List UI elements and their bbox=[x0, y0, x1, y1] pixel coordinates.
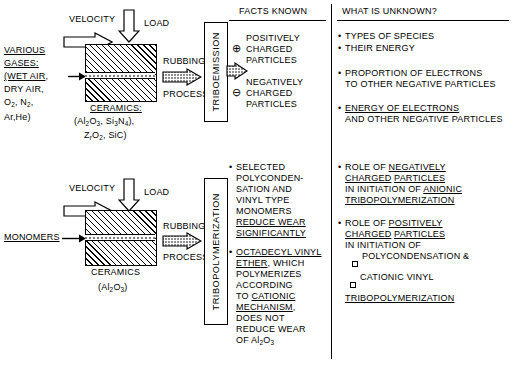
top-unknowns-list: • TYPES OF SPECIES • THEIR ENERGY • PROP… bbox=[338, 31, 503, 125]
bottom-rubbing-label: RUBBING bbox=[163, 221, 205, 232]
column-divider bbox=[331, 4, 332, 359]
unknown-item: • ROLE OF POSITIVELYCHARGED PARTICLESIN … bbox=[338, 218, 469, 251]
unknown-subitem: POLYCONDENSATION & bbox=[352, 251, 469, 272]
fact-text: SELECTEDPOLYCONDEN-SATION ANDVINYL TYPEM… bbox=[236, 162, 306, 239]
unknown-text: PROPORTION OF ELECTRONSTO OTHER NEGATIVE… bbox=[345, 68, 496, 90]
negative-charge-icon: ⊖ bbox=[232, 77, 246, 110]
column-header-facts-known: FACTS KNOWN bbox=[239, 6, 307, 17]
facts-known-underline bbox=[229, 20, 326, 21]
unknown-subitem: TRIBOPOLYMERIZATION bbox=[338, 293, 469, 304]
column-header-what-is-unknown: WHAT IS UNKNOWN? bbox=[342, 6, 437, 17]
fact-negative-text: NEGATIVELYCHARGEDPARTICLES bbox=[246, 77, 303, 110]
bullet-icon: • bbox=[338, 162, 345, 206]
top-process-label: PROCESS bbox=[163, 89, 208, 100]
bullet-icon: • bbox=[338, 31, 345, 42]
bullet-icon: • bbox=[229, 247, 236, 348]
top-input-line-4: DRY AIR, bbox=[4, 84, 48, 95]
bottom-monomer-feed-arrow-icon bbox=[62, 234, 86, 243]
bullet-icon: • bbox=[338, 68, 345, 90]
bottom-rubbing-arrow-icon bbox=[162, 232, 202, 250]
tribopolymerization-label: TRIBOPOLYMERIZATION bbox=[211, 193, 221, 310]
bottom-contact-interface bbox=[85, 234, 155, 241]
fact-item: • OCTADECYL VINYLETHER, WHICHPOLYMERIZES… bbox=[229, 247, 322, 348]
bottom-velocity-label: VELOCITY bbox=[69, 183, 115, 194]
top-specimen-formula-1: (Al2O3, Si3N4), bbox=[74, 116, 134, 129]
fact-item: • SELECTEDPOLYCONDEN-SATION ANDVINYL TYP… bbox=[229, 162, 322, 239]
unknown-subtext: TRIBOPOLYMERIZATION bbox=[345, 293, 454, 304]
unknown-text: ENERGY OF ELECTRONSAND OTHER NEGATIVE PA… bbox=[345, 103, 503, 125]
top-inputs-block: VARIOUS GASES: (WET AIR, DRY AIR, O2, N2… bbox=[4, 45, 48, 123]
fact-positive-text: POSITIVELYCHARGEDPARTICLES bbox=[246, 33, 300, 66]
bottom-facts-list: • SELECTEDPOLYCONDEN-SATION ANDVINYL TYP… bbox=[229, 162, 322, 348]
bullet-icon: • bbox=[338, 103, 345, 125]
bullet-icon: • bbox=[229, 162, 236, 239]
bullet-icon: • bbox=[338, 218, 345, 251]
triboemission-label: TRIBOEMISSION bbox=[211, 32, 221, 112]
top-specimen-title: CERAMICS: bbox=[90, 103, 142, 114]
top-input-line-5: O2, N2, bbox=[4, 97, 48, 110]
unknown-text: THEIR ENERGY bbox=[345, 43, 415, 54]
fact-item-positive: ⊕ POSITIVELYCHARGEDPARTICLES bbox=[232, 33, 303, 66]
unknown-item: • ROLE OF NEGATIVELYCHARGED PARTICLESIN … bbox=[338, 162, 469, 206]
bottom-process-label: PROCESS bbox=[163, 252, 208, 263]
unknown-item: • TYPES OF SPECIES bbox=[338, 31, 503, 42]
unknown-subtext: CATIONIC VINYL bbox=[360, 272, 434, 293]
top-velocity-label: VELOCITY bbox=[69, 14, 115, 25]
bottom-specimen-formula: (Al2O3) bbox=[98, 282, 128, 295]
square-bullet-icon bbox=[350, 272, 357, 293]
what-is-unknown-underline bbox=[337, 20, 509, 21]
top-rubbing-arrow-icon bbox=[162, 68, 202, 86]
figure-canvas: FACTS KNOWN WHAT IS UNKNOWN? VELOCITY LO… bbox=[0, 0, 514, 371]
bottom-input-monomers: MONOMERS bbox=[4, 232, 60, 243]
triboemission-box: TRIBOEMISSION bbox=[204, 22, 228, 122]
top-input-line-2: GASES: bbox=[4, 58, 48, 69]
top-load-arrow-icon bbox=[118, 9, 140, 43]
fact-mechanism: MECHANISM bbox=[236, 302, 293, 312]
top-contact-interface bbox=[85, 72, 155, 79]
fact-item-negative: ⊖ NEGATIVELYCHARGEDPARTICLES bbox=[232, 77, 303, 110]
top-input-line-3-wet: (WET AIR bbox=[4, 71, 45, 81]
tribopolymerization-box: TRIBOPOLYMERIZATION bbox=[204, 178, 228, 325]
unknown-text: ROLE OF NEGATIVELYCHARGED PARTICLESIN IN… bbox=[345, 162, 462, 206]
unknown-item: • THEIR ENERGY bbox=[338, 43, 503, 54]
unknown-text: ROLE OF POSITIVELYCHARGED PARTICLESIN IN… bbox=[345, 218, 445, 251]
top-input-line-6: Ar,He) bbox=[4, 112, 48, 123]
top-gas-feed-arrow-icon bbox=[68, 72, 86, 81]
top-load-label: LOAD bbox=[144, 18, 169, 29]
unknown-subitem: CATIONIC VINYL bbox=[350, 272, 469, 293]
square-bullet-icon bbox=[352, 251, 359, 272]
top-input-line-1: VARIOUS bbox=[4, 45, 48, 56]
unknown-item: • PROPORTION OF ELECTRONSTO OTHER NEGATI… bbox=[338, 68, 503, 90]
unknown-text: TYPES OF SPECIES bbox=[345, 31, 434, 42]
unknown-subtext: POLYCONDENSATION & bbox=[362, 251, 469, 272]
bullet-icon: • bbox=[338, 43, 345, 54]
bottom-specimen-title: CERAMICS bbox=[91, 267, 140, 278]
top-rubbing-label: RUBBING bbox=[163, 56, 205, 67]
fact-text: OCTADECYL VINYLETHER, WHICHPOLYMERIZESAC… bbox=[236, 247, 322, 348]
bottom-load-arrow-icon bbox=[118, 178, 140, 212]
fact-ether: ETHER bbox=[236, 258, 268, 268]
unknown-item: • ENERGY OF ELECTRONSAND OTHER NEGATIVE … bbox=[338, 103, 503, 125]
top-facts-list: ⊕ POSITIVELYCHARGEDPARTICLES ⊖ NEGATIVEL… bbox=[232, 33, 303, 110]
bottom-load-label: LOAD bbox=[144, 187, 169, 198]
top-specimen-formula-2: ZrO2, SiC) bbox=[84, 130, 127, 143]
bottom-unknowns-list: • ROLE OF NEGATIVELYCHARGED PARTICLESIN … bbox=[338, 162, 469, 304]
positive-charge-icon: ⊕ bbox=[232, 33, 246, 66]
